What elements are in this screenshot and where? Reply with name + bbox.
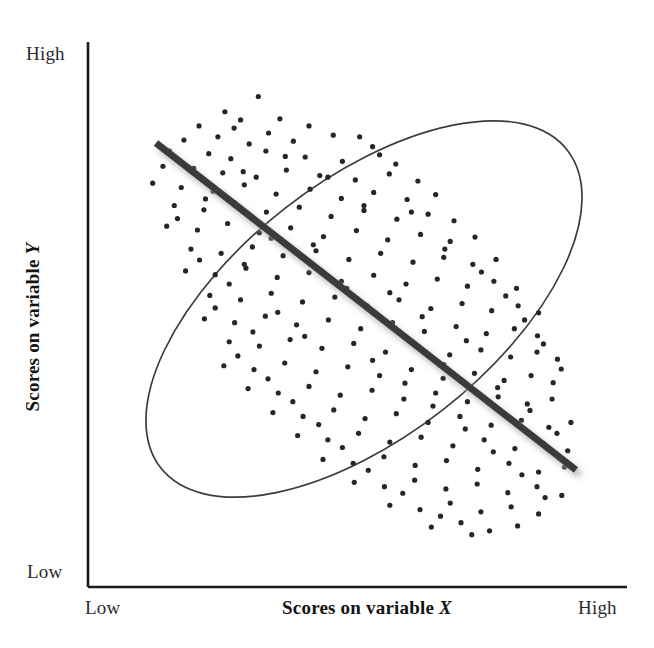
scatter-dot xyxy=(542,495,547,500)
scatter-dot xyxy=(175,216,180,221)
scatter-dot xyxy=(450,443,455,448)
scatter-dot xyxy=(326,317,331,322)
scatter-dot xyxy=(420,314,425,319)
scatter-dot xyxy=(303,154,308,159)
scatter-dot xyxy=(505,490,510,495)
scatter-dot xyxy=(514,286,519,291)
scatter-dot xyxy=(472,371,477,376)
scatter-dot xyxy=(370,358,375,363)
scatter-dot xyxy=(338,393,343,398)
scatter-dot xyxy=(479,269,484,274)
scatter-dot xyxy=(377,373,382,378)
scatter-dot xyxy=(269,291,274,296)
scatter-dot xyxy=(306,384,311,389)
scatter-dot xyxy=(448,239,453,244)
scatter-dot xyxy=(381,454,386,459)
scatter-dot xyxy=(568,420,573,425)
scatter-dot xyxy=(225,221,230,226)
scatter-dot xyxy=(489,423,494,428)
scatter-dot xyxy=(256,94,261,99)
scatter-dot xyxy=(393,161,398,166)
scatter-dot xyxy=(516,303,521,308)
scatter-dot xyxy=(394,411,399,416)
scatter-dot xyxy=(227,339,232,344)
scatter-dot xyxy=(519,472,524,477)
scatter-dot xyxy=(215,134,220,139)
scatter-dot xyxy=(387,171,392,176)
scatter-dot xyxy=(213,305,218,310)
scatter-dot xyxy=(294,322,299,327)
scatter-dot xyxy=(250,329,255,334)
scatter-dot xyxy=(489,308,494,313)
scatter-dot xyxy=(458,520,463,525)
scatter-dot xyxy=(464,338,469,343)
scatter-dot xyxy=(238,297,243,302)
scatter-dot xyxy=(302,334,307,339)
scatter-dot xyxy=(263,148,268,153)
scatter-dot xyxy=(535,333,540,338)
scatter-dot xyxy=(257,230,262,235)
scatter-dot xyxy=(238,117,243,122)
scatter-dot xyxy=(433,390,438,395)
scatter-dot xyxy=(353,177,358,182)
scatter-dot xyxy=(506,461,511,466)
scatter-dot xyxy=(382,484,387,489)
scatter-dot xyxy=(369,388,374,393)
scatter-dot xyxy=(475,467,480,472)
scatter-dot xyxy=(503,293,508,298)
scatter-dot xyxy=(559,366,564,371)
scatter-dot xyxy=(441,255,446,260)
scatter-dot xyxy=(512,446,517,451)
scatter-dot xyxy=(207,293,212,298)
scatter-dot xyxy=(356,431,361,436)
scatter-dot xyxy=(283,154,288,159)
scatter-dot xyxy=(469,532,474,537)
scatter-dot xyxy=(181,138,186,143)
scatter-dot xyxy=(383,350,388,355)
scatter-dot xyxy=(183,268,188,273)
scatter-dot xyxy=(387,290,392,295)
scatter-dot xyxy=(417,507,422,512)
scatter-dot xyxy=(527,408,532,413)
scatter-dot xyxy=(195,227,200,232)
scatter-dots xyxy=(150,94,573,537)
scatter-dot xyxy=(331,133,336,138)
scatter-dot xyxy=(478,347,483,352)
scatter-dot xyxy=(459,301,464,306)
scatter-dot xyxy=(358,326,363,331)
scatter-dot xyxy=(371,273,376,278)
scatter-dot xyxy=(206,151,211,156)
scatter-dot xyxy=(179,185,184,190)
scatter-dot xyxy=(409,367,414,372)
scatter-dot xyxy=(451,218,456,223)
scatter-dot xyxy=(306,123,311,128)
scatter-dot xyxy=(428,306,433,311)
scatter-dot xyxy=(288,225,293,230)
scatter-dot xyxy=(354,228,359,233)
scatter-dot xyxy=(345,364,350,369)
scatter-dot xyxy=(242,262,247,267)
scatter-dot xyxy=(387,503,392,508)
scatter-dot xyxy=(164,224,169,229)
scatter-dot xyxy=(351,341,356,346)
scatter-dot xyxy=(221,363,226,368)
scatter-dot xyxy=(472,235,477,240)
scatter-dot xyxy=(412,478,417,483)
scatter-dot xyxy=(534,350,539,355)
axis-lines xyxy=(88,42,627,587)
scatter-dot xyxy=(438,514,443,519)
scatter-dot xyxy=(495,385,500,390)
scatter-dot xyxy=(361,203,366,208)
scatter-dot xyxy=(418,232,423,237)
scatter-dot xyxy=(245,386,250,391)
scatter-dot xyxy=(263,314,268,319)
scatter-dot xyxy=(508,354,513,359)
scatter-dot xyxy=(265,376,270,381)
scatter-dot xyxy=(444,458,449,463)
scatter-dot xyxy=(385,237,390,242)
scatter-dot xyxy=(515,523,520,528)
scatter-dot xyxy=(340,159,345,164)
scatter-dot xyxy=(430,403,435,408)
scatter-dot xyxy=(478,509,483,514)
scatter-dot xyxy=(325,437,330,442)
